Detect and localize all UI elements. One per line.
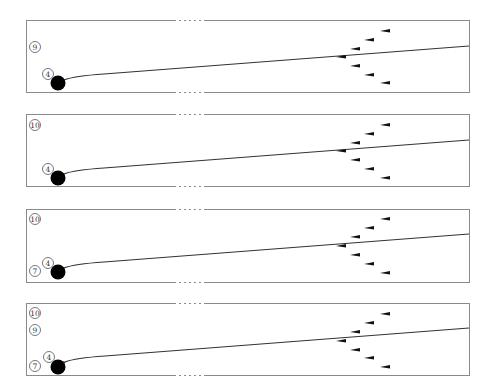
circled-number-label: 7 — [33, 362, 38, 371]
pin-marker-icon — [364, 167, 374, 171]
ball-label: 4 — [47, 353, 52, 362]
pin-marker-icon — [364, 132, 374, 136]
bowling-ball — [51, 360, 66, 375]
lane-border — [27, 210, 470, 283]
pin-marker-icon — [364, 226, 374, 230]
pin-marker-icon — [336, 339, 346, 343]
pin-marker-icon — [380, 217, 390, 221]
pin-marker-icon — [350, 141, 360, 145]
ball-label: 4 — [46, 70, 51, 79]
ball-path-arrow — [65, 328, 469, 362]
pin-marker-icon — [380, 29, 390, 33]
pin-marker-icon — [350, 158, 360, 162]
ball-path-arrow — [64, 46, 469, 80]
pin-marker-icon — [350, 64, 360, 68]
pin-marker-icon — [380, 271, 390, 275]
pin-marker-icon — [350, 348, 360, 352]
ball-path-arrow — [64, 140, 469, 174]
circled-number-label: 7 — [33, 267, 38, 276]
bowling-ball — [51, 171, 66, 186]
pin-marker-icon — [350, 47, 360, 51]
pin-marker-icon — [350, 253, 360, 257]
pin-marker-icon — [380, 365, 390, 369]
pin-marker-icon — [364, 262, 374, 266]
ball-label: 4 — [46, 259, 51, 268]
pin-marker-icon — [380, 176, 390, 180]
pin-marker-icon — [350, 330, 360, 334]
pin-marker-icon — [364, 356, 374, 360]
circled-number-label: 10 — [30, 121, 40, 130]
lane-panel-1: 94 — [27, 21, 470, 93]
pin-marker-icon — [380, 81, 390, 85]
bowling-ball — [51, 76, 66, 91]
pin-marker-icon — [364, 73, 374, 77]
pin-marker-icon — [364, 321, 374, 325]
lane-border — [27, 304, 470, 376]
pin-marker-icon — [380, 123, 390, 127]
circled-number-label: 9 — [33, 326, 38, 335]
lane-panel-4: 10974 — [27, 304, 470, 376]
pin-marker-icon — [350, 235, 360, 239]
lane-border — [27, 21, 470, 93]
circled-number-label: 10 — [30, 309, 40, 318]
circled-number-label: 10 — [30, 215, 40, 224]
pin-marker-icon — [380, 312, 390, 316]
pin-marker-icon — [364, 38, 374, 42]
lane-border — [27, 115, 470, 187]
ball-label: 4 — [46, 165, 51, 174]
circled-number-label: 9 — [33, 43, 38, 52]
lane-panel-2: 104 — [27, 115, 470, 187]
bowling-diagram: 94104107410974 — [0, 0, 493, 392]
bowling-ball — [51, 265, 66, 280]
ball-path-arrow — [64, 234, 469, 268]
lane-panel-3: 1074 — [27, 210, 470, 283]
